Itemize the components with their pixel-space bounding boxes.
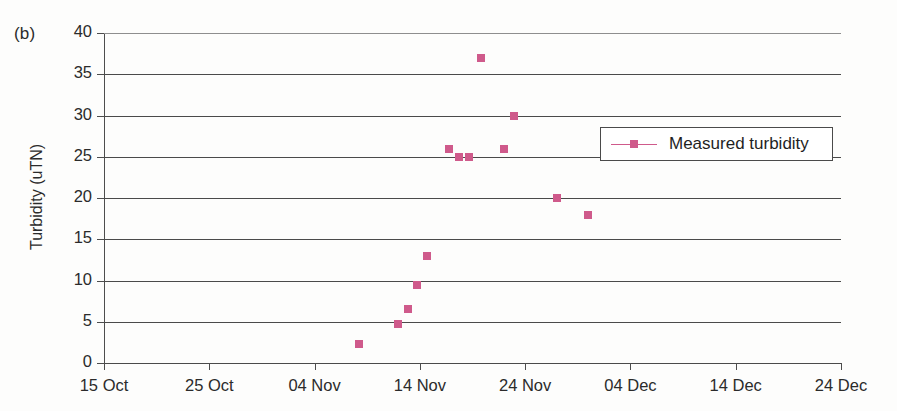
x-tick [841,363,842,370]
data-point [445,145,453,153]
legend-marker-icon [611,139,657,149]
y-tick: 35 [97,74,104,75]
y-tick-label: 40 [74,22,92,41]
x-tick [104,363,105,370]
y-tick: 10 [97,281,104,282]
legend-entry-label: Measured turbidity [669,134,809,154]
y-tick-label: 0 [83,352,92,371]
x-tick-label: 14 Nov [394,376,446,395]
y-axis-title: Turbidity (uTN) [28,97,46,297]
y-tick-label: 5 [83,311,92,330]
y-tick: 0 [97,363,104,364]
x-tick-label: 25 Oct [185,376,234,395]
gridline [104,239,841,240]
y-tick: 40 [97,33,104,34]
turbidity-scatter-chart: (b) Turbidity (uTN) 0510152025303540 15 … [0,0,897,411]
x-tick [209,363,210,370]
x-tick [420,363,421,370]
data-point [584,211,592,219]
y-tick-label: 20 [74,187,92,206]
y-tick: 25 [97,157,104,158]
data-point [413,281,421,289]
x-tick [630,363,631,370]
x-tick-label: 04 Nov [288,376,340,395]
y-tick-label: 15 [74,228,92,247]
y-tick-label: 10 [74,270,92,289]
gridline [104,33,841,34]
y-tick: 20 [97,198,104,199]
y-tick-label: 25 [74,146,92,165]
x-tick [736,363,737,370]
x-tick-label: 04 Dec [604,376,656,395]
panel-label: (b) [14,24,35,44]
x-tick-label: 24 Dec [815,376,867,395]
y-tick-label: 30 [74,105,92,124]
data-point [500,145,508,153]
data-point [477,54,485,62]
x-axis-line [104,363,841,364]
gridline [104,74,841,75]
x-tick [525,363,526,370]
data-point [465,153,473,161]
data-point [394,320,402,328]
gridline [104,198,841,199]
data-point [404,305,412,313]
x-tick [315,363,316,370]
data-point [455,153,463,161]
gridline [104,281,841,282]
y-tick: 15 [97,239,104,240]
x-tick-label: 14 Dec [710,376,762,395]
x-tick-label: 24 Nov [499,376,551,395]
y-tick-label: 35 [74,63,92,82]
gridline [104,322,841,323]
chart-legend: Measured turbidity [600,127,833,161]
y-tick: 5 [97,322,104,323]
data-point [553,194,561,202]
data-point [423,252,431,260]
data-point [355,340,363,348]
data-point [510,112,518,120]
y-tick: 30 [97,116,104,117]
gridline [104,116,841,117]
x-tick-label: 15 Oct [80,376,129,395]
plot-area: 0510152025303540 15 Oct25 Oct04 Nov14 No… [104,33,841,363]
